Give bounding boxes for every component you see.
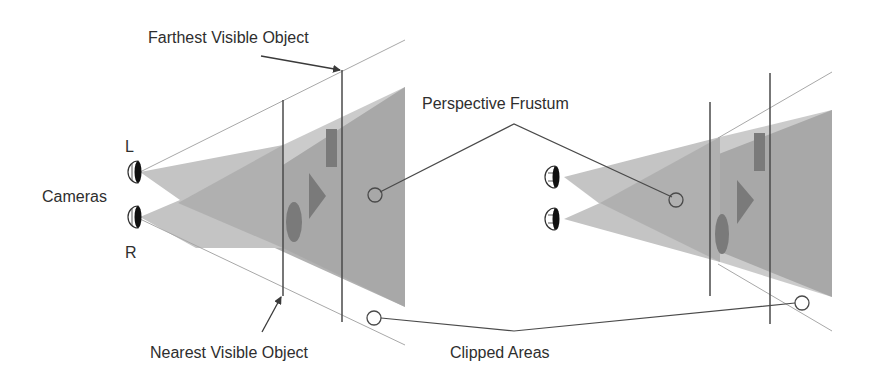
cameras-label: Cameras <box>42 188 107 205</box>
right-camera-lower-icon <box>545 208 560 230</box>
camera-left-label: L <box>125 138 134 155</box>
right-clipped-marker-circle <box>795 296 809 310</box>
left-diagram: L R Cameras Farthest Visible Object Near… <box>42 29 405 361</box>
camera-right-label: R <box>125 244 137 261</box>
overlap-region <box>178 87 405 307</box>
camera-right-icon <box>128 206 142 228</box>
ellipse-object <box>286 202 302 242</box>
nearest-object-label: Nearest Visible Object <box>150 344 309 361</box>
clipped-areas-label: Clipped Areas <box>450 344 550 361</box>
farthest-object-label: Farthest Visible Object <box>148 29 309 46</box>
farthest-arrow <box>261 56 340 70</box>
right-ellipse-object <box>715 214 729 254</box>
right-diagram <box>545 72 832 331</box>
perspective-frustum-label: Perspective Frustum <box>422 95 569 112</box>
rectangle-object <box>326 129 337 167</box>
camera-left-icon <box>128 161 142 183</box>
clipped-areas-leader <box>381 303 795 331</box>
stereo-frustum-diagram: L R Cameras Farthest Visible Object Near… <box>0 0 875 384</box>
right-camera-upper-icon <box>545 166 560 188</box>
nearest-arrow <box>262 297 281 332</box>
clipped-areas-callout: Clipped Areas <box>381 303 795 361</box>
clipped-marker-circle <box>367 311 381 325</box>
right-rectangle-object <box>754 133 765 171</box>
